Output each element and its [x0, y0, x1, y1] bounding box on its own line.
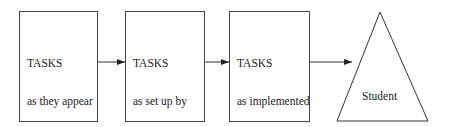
- tasks-teachers-box: TASKS as set up by teachers: [125, 11, 205, 122]
- label-line: as they appear: [27, 95, 93, 108]
- tasks-curricular-box: TASKS as they appear in curricular/ inst…: [19, 11, 98, 122]
- label-line: TASKS: [27, 57, 93, 70]
- label-line: Student: [362, 90, 404, 103]
- tasks-teachers-text: TASKS as set up by teachers: [133, 32, 187, 127]
- tasks-students-text: TASKS as implemented by students: [237, 32, 310, 127]
- tasks-curricular-text: TASKS as they appear in curricular/ inst…: [27, 32, 93, 127]
- tasks-students-box: TASKS as implemented by students: [229, 11, 310, 122]
- label-line: as implemented: [237, 95, 310, 108]
- label-line: TASKS: [133, 57, 187, 70]
- student-learning-text: Student Learning: [362, 65, 404, 127]
- label-line: as set up by: [133, 95, 187, 108]
- label-line: TASKS: [237, 57, 310, 70]
